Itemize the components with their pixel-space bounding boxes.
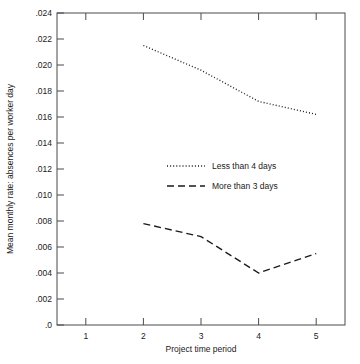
- x-axis-ticks: 12345: [83, 13, 318, 341]
- x-tick-label: 5: [314, 331, 319, 341]
- y-axis-ticks: .0.002.004.006.008.010.012.014.016.018.0…: [35, 8, 64, 330]
- series-line-dashed: [143, 224, 316, 273]
- y-tick-label: .006: [35, 242, 52, 252]
- y-tick-label: .012: [35, 164, 52, 174]
- x-tick-label: 4: [256, 331, 261, 341]
- x-tick-label: 3: [199, 331, 204, 341]
- series-line-dotted: [143, 46, 316, 115]
- y-tick-label: .024: [35, 8, 52, 18]
- plot-frame: [57, 13, 345, 325]
- chart-legend: Less than 4 daysMore than 3 days: [167, 161, 278, 191]
- y-axis-title: Mean monthly rate: absences per worker d…: [5, 83, 15, 254]
- y-tick-label: .020: [35, 60, 52, 70]
- y-tick-label: .002: [35, 294, 52, 304]
- legend-item-label: Less than 4 days: [212, 161, 276, 171]
- x-axis-title: Project time period: [166, 344, 237, 354]
- chart-container: .0.002.004.006.008.010.012.014.016.018.0…: [0, 0, 360, 364]
- y-tick-label: .018: [35, 86, 52, 96]
- x-tick-label: 2: [141, 331, 146, 341]
- legend-item-label: More than 3 days: [212, 181, 278, 191]
- y-tick-label: .014: [35, 138, 52, 148]
- y-tick-label: .0: [45, 320, 52, 330]
- data-series-group: [143, 46, 316, 274]
- line-chart: .0.002.004.006.008.010.012.014.016.018.0…: [0, 0, 360, 364]
- x-tick-label: 1: [83, 331, 88, 341]
- y-tick-label: .016: [35, 112, 52, 122]
- y-tick-label: .004: [35, 268, 52, 278]
- y-tick-label: .022: [35, 34, 52, 44]
- y-tick-label: .010: [35, 190, 52, 200]
- y-tick-label: .008: [35, 216, 52, 226]
